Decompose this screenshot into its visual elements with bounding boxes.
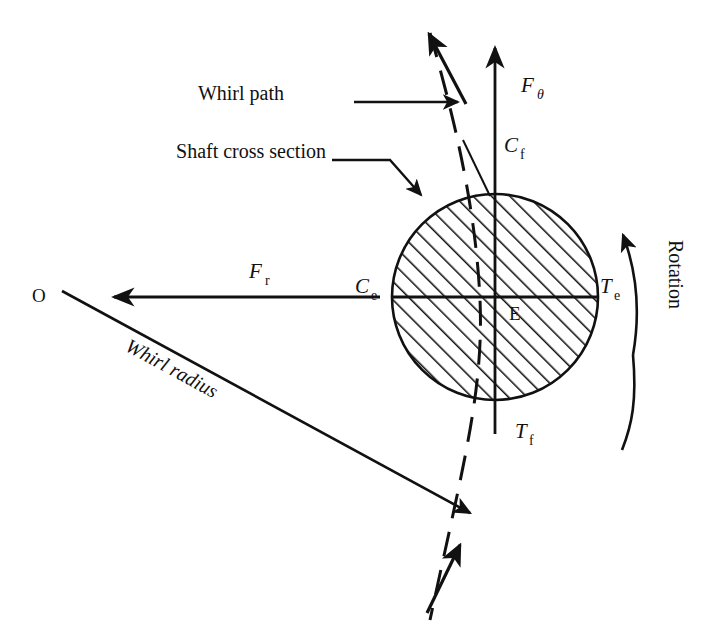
label-c-e-subscript: e: [371, 288, 377, 303]
label-c-f: C f: [504, 133, 525, 162]
label-t-e-subscript: e: [614, 288, 620, 303]
rotation-arc-arrow: [622, 235, 637, 450]
label-c-e: C e: [355, 274, 377, 303]
shaft-cross-section-leader: [332, 160, 421, 195]
label-rotation: Rotation: [665, 240, 687, 309]
label-whirl-path: Whirl path: [198, 82, 284, 105]
label-t-f-symbol: T: [515, 419, 528, 443]
label-f-theta: F θ: [520, 73, 544, 102]
label-f-r: F r: [248, 259, 270, 288]
label-c-f-symbol: C: [504, 133, 519, 157]
label-f-r-symbol: F: [248, 259, 262, 283]
label-f-theta-symbol: F: [520, 73, 534, 97]
label-f-r-subscript: r: [265, 273, 270, 288]
label-whirl-radius: Whirl radius: [122, 334, 222, 402]
label-t-f: T f: [515, 419, 534, 448]
label-t-e-symbol: T: [600, 274, 613, 298]
label-t-e: T e: [600, 274, 620, 303]
label-centre-point-e: E: [509, 303, 521, 324]
diagram-canvas: Whirl path Shaft cross section F θ C f F…: [0, 0, 716, 635]
label-f-theta-subscript: θ: [537, 87, 544, 102]
label-origin-point-o: O: [32, 285, 46, 306]
label-c-f-subscript: f: [520, 147, 525, 162]
label-c-e-symbol: C: [355, 274, 370, 298]
label-shaft-cross-section: Shaft cross section: [176, 140, 326, 162]
whirling-shaft-diagram: Whirl path Shaft cross section F θ C f F…: [0, 0, 716, 635]
label-t-f-subscript: f: [529, 433, 534, 448]
